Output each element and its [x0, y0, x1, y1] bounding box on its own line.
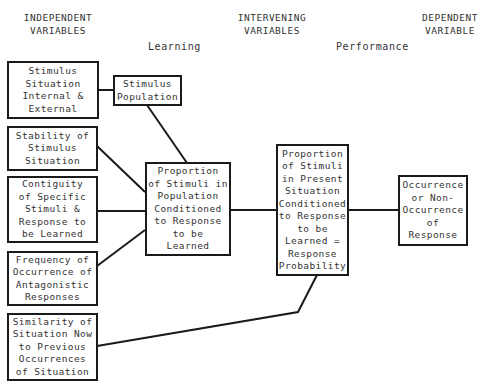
node-contiguity: Contiguity of Specific Stimuli & Respons… [7, 176, 98, 243]
independent-variables-header: INDEPENDENT VARIABLES [12, 11, 104, 37]
learning-label: Learning [148, 41, 201, 52]
node-similarity: Similarity of Situation Now to Previous … [7, 313, 98, 381]
node-occurrence: Occurrence or Non- Occurrence of Respons… [398, 175, 468, 246]
node-stimulus-population: Stimulus Population [113, 75, 182, 106]
edge-population-to-proportion [147, 105, 187, 163]
node-proportion-present: Proportion of Stimuli in Present Situati… [276, 144, 349, 276]
node-stability: Stability of Stimulus Situation [7, 126, 98, 171]
intervening-variables-header: INTERVENING VARIABLES [222, 11, 322, 37]
node-frequency: Frequency of Occurrence of Antagonistic … [7, 251, 98, 306]
dependent-variable-header: DEPENDENT VARIABLE [410, 11, 483, 37]
edge-similarity-to-present [97, 275, 317, 346]
node-proportion-population: Proportion of Stimuli in Population Cond… [145, 162, 231, 256]
edge-frequency-to-proportion [97, 230, 145, 266]
node-stimulus-situation: Stimulus Situation Internal & External [7, 61, 99, 119]
edge-stability-to-proportion [97, 146, 145, 192]
performance-label: Performance [336, 41, 409, 52]
